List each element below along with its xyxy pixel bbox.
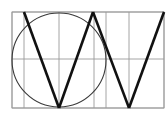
letter-stroke-2	[59, 12, 93, 108]
letter-stroke-4	[129, 12, 164, 108]
w-construction-diagram	[0, 0, 166, 119]
letter-stroke-3	[93, 12, 129, 108]
letter-stroke-1	[24, 12, 59, 108]
